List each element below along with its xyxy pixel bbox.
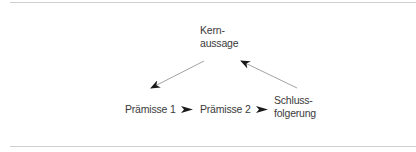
arrowhead-praemisse-2-to-schlussfolgerung	[256, 106, 268, 113]
diagram-edges	[0, 0, 416, 152]
arrowhead-praemisse-1-to-praemisse-2	[181, 106, 193, 113]
edge-schlussfolgerung-to-kernaussage	[241, 61, 297, 88]
edge-kernaussage-to-praemisse-1	[151, 61, 204, 88]
